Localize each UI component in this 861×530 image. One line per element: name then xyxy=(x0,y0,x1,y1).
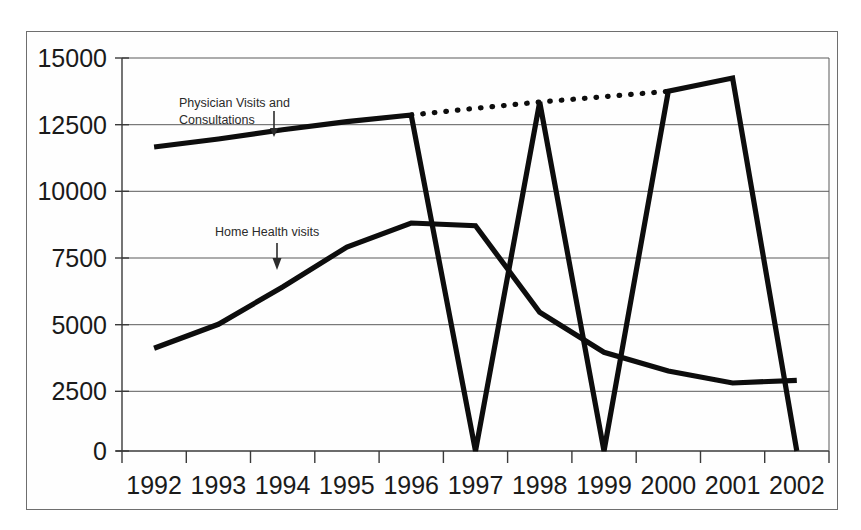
y-label-7500: 7500 xyxy=(51,244,107,272)
x-label-1994: 1994 xyxy=(255,471,311,499)
y-label-12500: 12500 xyxy=(37,111,107,139)
x-label-1998: 1998 xyxy=(512,471,568,499)
y-label-2500: 2500 xyxy=(51,377,107,405)
line-chart: 15000 12500 10000 7500 5000 2500 0 xyxy=(27,32,837,509)
y-label-5000: 5000 xyxy=(51,311,107,339)
x-tickmarks xyxy=(122,451,829,463)
series-line-home-health-visits xyxy=(154,223,797,383)
y-label-10000: 10000 xyxy=(37,177,107,205)
x-axis-labels: 1992 1993 1994 1995 1996 1997 1998 1999 … xyxy=(126,471,824,499)
physician-annotation-line-2: Consultations xyxy=(179,113,255,127)
x-label-2000: 2000 xyxy=(640,471,696,499)
y-label-15000: 15000 xyxy=(37,44,107,72)
x-label-1996: 1996 xyxy=(383,471,439,499)
series-line-physician-visits xyxy=(154,78,797,451)
physician-annotation: Physician Visits and Consultations xyxy=(179,96,290,137)
y-label-0: 0 xyxy=(93,437,107,465)
physician-annotation-line-1: Physician Visits and xyxy=(179,96,290,110)
home-health-annotation: Home Health visits xyxy=(215,225,319,270)
chart-screenshot: 15000 12500 10000 7500 5000 2500 0 xyxy=(0,0,861,530)
x-label-1999: 1999 xyxy=(576,471,632,499)
x-label-2002: 2002 xyxy=(769,471,825,499)
y-axis-labels: 15000 12500 10000 7500 5000 2500 0 xyxy=(37,44,107,465)
x-label-1993: 1993 xyxy=(191,471,247,499)
home-health-annotation-arrowhead-icon xyxy=(273,258,282,270)
home-health-annotation-line-1: Home Health visits xyxy=(215,225,319,239)
x-label-2001: 2001 xyxy=(705,471,761,499)
x-label-1995: 1995 xyxy=(319,471,375,499)
chart-frame: 15000 12500 10000 7500 5000 2500 0 xyxy=(26,31,838,510)
x-label-1997: 1997 xyxy=(448,471,504,499)
x-label-1992: 1992 xyxy=(126,471,182,499)
